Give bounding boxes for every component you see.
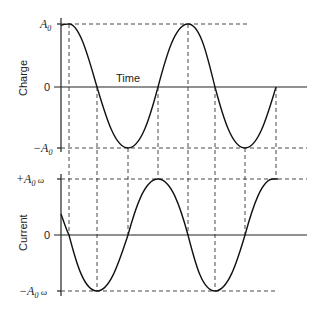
current-min-label: −A0 ω	[19, 284, 47, 300]
charge-current-diagram: A0 0 −A0 Time Charge +A0 ω 0 −A0 ω Curre…	[0, 0, 325, 315]
charge-min-label: −A0	[33, 141, 52, 157]
time-axis-label: Time	[116, 72, 140, 84]
current-panel: +A0 ω 0 −A0 ω Current	[16, 172, 307, 300]
charge-axis-label: Charge	[17, 60, 29, 96]
charge-panel: A0 0 −A0 Time Charge	[17, 17, 307, 157]
charge-zero-label: 0	[44, 81, 50, 93]
current-axis-label: Current	[17, 214, 29, 251]
phase-guides	[69, 24, 276, 291]
charge-curve	[61, 24, 276, 148]
current-zero-label: 0	[44, 229, 50, 241]
charge-max-label: A0	[39, 17, 51, 33]
current-max-label: +A0 ω	[16, 172, 44, 188]
